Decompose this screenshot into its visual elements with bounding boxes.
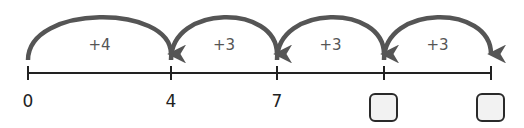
- tick-label: 7: [272, 91, 283, 111]
- tick-label: 0: [23, 91, 34, 111]
- answer-box[interactable]: [369, 93, 398, 122]
- jump-label: +3: [426, 36, 448, 54]
- number-line-diagram: +4+3+3+3 047: [0, 0, 524, 128]
- jump-label: +3: [319, 36, 341, 54]
- jump-label: +4: [88, 36, 110, 54]
- answer-box[interactable]: [476, 93, 505, 122]
- jump-label: +3: [213, 36, 235, 54]
- tick-label: 4: [166, 91, 177, 111]
